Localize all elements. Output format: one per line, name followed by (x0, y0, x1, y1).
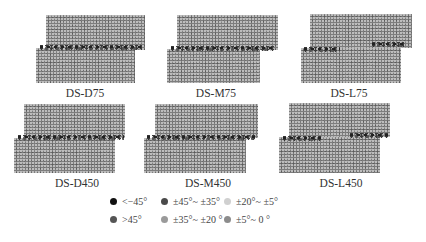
lower-block (301, 48, 401, 83)
upper-block (177, 15, 278, 50)
panel-label: DS-L75 (330, 87, 367, 99)
panel-label: DS-M75 (196, 87, 236, 99)
upper-block (155, 104, 258, 138)
panel-label: DS-D75 (66, 87, 104, 99)
shear-band (302, 47, 340, 52)
legend-dot-icon (224, 198, 231, 205)
upper-block (24, 104, 125, 138)
legend-dot-icon (224, 216, 231, 223)
legend-dot-icon (161, 216, 168, 223)
legend-item: ±20°~ ±5° (224, 196, 278, 207)
legend-item: ±35°~ ±20 ° (161, 214, 222, 225)
legend-dot-icon (110, 198, 117, 205)
panel-label: DS-M450 (185, 177, 231, 189)
shear-band (145, 135, 257, 140)
legend-item: >45° (110, 214, 142, 225)
shear-band (281, 136, 321, 141)
shear-band (169, 46, 275, 51)
lower-block (36, 48, 135, 83)
legend-item: ±5°~ 0 ° (224, 214, 270, 225)
panel-label: DS-L450 (320, 177, 363, 189)
shear-band (16, 135, 124, 140)
shear-band (38, 45, 142, 50)
lower-block (14, 138, 115, 173)
legend-item: ±45°~ ±35° (161, 196, 220, 207)
lower-block (144, 138, 246, 173)
shear-band (370, 42, 404, 47)
legend-dot-icon (110, 216, 117, 223)
panel-label: DS-D450 (55, 177, 99, 189)
lower-block (279, 137, 380, 173)
lower-block (167, 49, 260, 83)
upper-block (289, 103, 390, 137)
legend-dot-icon (161, 198, 168, 205)
shear-band (348, 133, 388, 138)
legend-item: <−45° (110, 196, 147, 207)
